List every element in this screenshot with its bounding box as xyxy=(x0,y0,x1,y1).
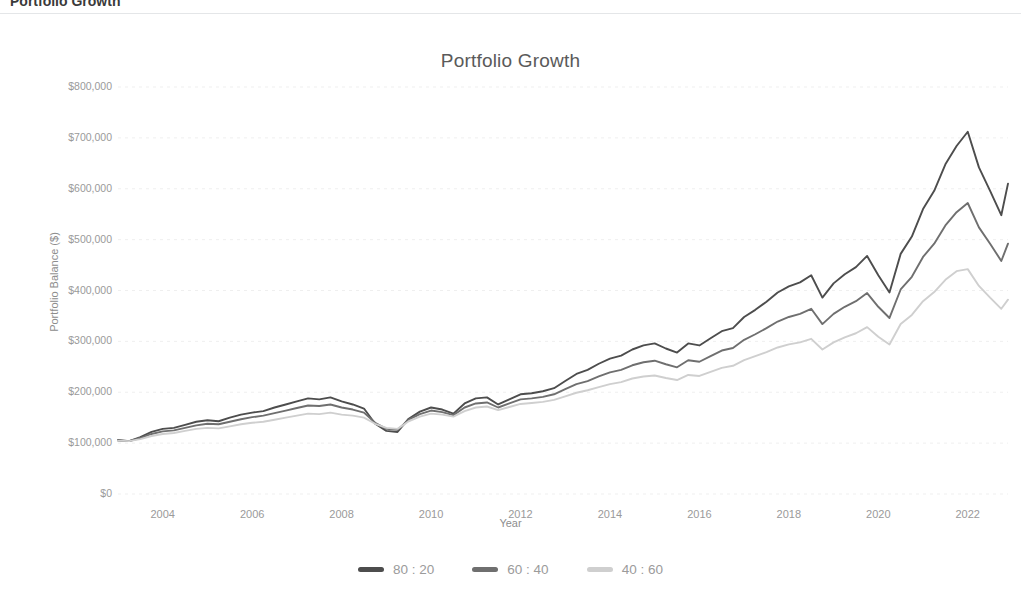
y-axis-tick-label: $100,000 xyxy=(22,436,112,448)
y-axis-tick-label: $800,000 xyxy=(22,80,112,92)
chart-legend: 80 : 2060 : 4040 : 60 xyxy=(0,562,1021,577)
y-axis-tick-label: $700,000 xyxy=(22,131,112,143)
plot-area: $800,000$700,000$600,000$500,000$400,000… xyxy=(0,14,1021,606)
legend-item[interactable]: 80 : 20 xyxy=(358,562,434,577)
chart-card: Portfolio Growth $800,000$700,000$600,00… xyxy=(0,14,1021,606)
y-axis-tick-label: $500,000 xyxy=(22,233,112,245)
series-line-6040 xyxy=(118,203,1008,441)
y-axis-tick-label: $200,000 xyxy=(22,385,112,397)
page-header-title: Portfolio Growth xyxy=(10,0,120,9)
page-header: Portfolio Growth xyxy=(0,0,1021,13)
legend-swatch-icon xyxy=(472,567,498,572)
legend-swatch-icon xyxy=(587,567,613,572)
legend-label: 40 : 60 xyxy=(622,562,663,577)
y-axis-tick-label: $600,000 xyxy=(22,182,112,194)
y-axis-label: Portfolio Balance ($) xyxy=(48,192,60,372)
x-axis-ticks: 2004200620082010201220142016201820202022 xyxy=(0,492,1021,516)
y-axis-tick-label: $300,000 xyxy=(22,334,112,346)
legend-item[interactable]: 60 : 40 xyxy=(472,562,548,577)
y-axis-tick-label: $400,000 xyxy=(22,284,112,296)
legend-label: 60 : 40 xyxy=(507,562,548,577)
series-line-8020 xyxy=(118,132,1008,441)
legend-swatch-icon xyxy=(358,567,384,572)
legend-label: 80 : 20 xyxy=(393,562,434,577)
legend-item[interactable]: 40 : 60 xyxy=(587,562,663,577)
series-line-4060 xyxy=(118,269,1008,441)
x-axis-label: Year xyxy=(0,517,1021,529)
